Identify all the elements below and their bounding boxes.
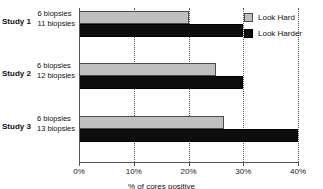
x-axis-tick-label: 0% <box>73 167 85 176</box>
x-axis-tick-label: 40% <box>290 167 306 176</box>
x-axis-tick-label: 30% <box>235 167 251 176</box>
x-axis-tick <box>79 162 80 166</box>
category-note: 6 biopsies <box>38 9 75 19</box>
legend: Look Hard Look Harder <box>244 11 302 43</box>
category-notes: 6 biopsies 11 biopsies <box>38 9 75 29</box>
category-note: 13 biopsies <box>37 124 75 134</box>
bar-study-3-look-hard <box>79 116 224 129</box>
category-notes: 6 biopsies 13 biopsies <box>37 114 75 134</box>
x-axis-tick-label: 10% <box>126 167 142 176</box>
category-label-group-1: Study 2 6 biopsies 12 biopsies <box>0 60 76 90</box>
category-name: Study 3 <box>2 122 31 131</box>
x-axis-caption: % of cores positive <box>0 182 323 189</box>
category-label-group-0: Study 1 6 biopsies 11 biopsies <box>0 8 76 38</box>
y-axis-line <box>79 8 80 163</box>
category-notes: 6 biopsies 12 biopsies <box>37 61 75 81</box>
bar-study-2-look-harder <box>79 76 243 89</box>
legend-swatch-icon <box>244 13 253 22</box>
category-name: Study 2 <box>2 69 31 78</box>
bar-study-1-look-harder <box>79 24 243 37</box>
category-note: 6 biopsies <box>37 61 75 71</box>
x-axis-tick-label: 20% <box>180 167 196 176</box>
x-axis-tick <box>134 162 135 166</box>
legend-item-look-hard: Look Hard <box>244 11 302 24</box>
category-note: 11 biopsies <box>38 19 75 29</box>
legend-label: Look Harder <box>258 29 302 38</box>
x-axis-tick <box>243 162 244 166</box>
x-axis-tick <box>189 162 190 166</box>
x-axis-tick <box>298 162 299 166</box>
category-note: 6 biopsies <box>37 114 75 124</box>
bar-study-1-look-hard <box>79 11 189 24</box>
category-name: Study 1 <box>2 17 31 26</box>
bar-chart: Study 1 6 biopsies 11 biopsies Study 2 6… <box>0 0 323 189</box>
category-label-group-2: Study 3 6 biopsies 13 biopsies <box>0 113 76 143</box>
legend-label: Look Hard <box>258 13 295 22</box>
bar-study-2-look-hard <box>79 63 216 76</box>
category-note: 12 biopsies <box>37 71 75 81</box>
legend-swatch-icon <box>244 29 253 38</box>
bar-study-3-look-harder <box>79 129 298 142</box>
legend-item-look-harder: Look Harder <box>244 27 302 40</box>
